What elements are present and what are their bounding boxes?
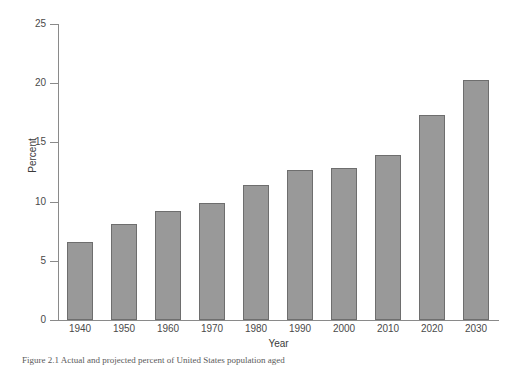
x-axis-title: Year — [58, 338, 499, 349]
x-axis-tick-label: 1950 — [102, 324, 146, 334]
x-axis-tick-label: 1960 — [146, 324, 190, 334]
y-axis-tick — [50, 320, 58, 321]
bar — [375, 155, 401, 320]
bar — [419, 115, 445, 320]
x-axis-tick-label: 1990 — [278, 324, 322, 334]
y-axis-tick-label: 25 — [0, 19, 46, 29]
y-axis-tick-label: 15 — [0, 137, 46, 147]
x-axis-tick-label: 2020 — [410, 324, 454, 334]
y-axis-tick-label: 0 — [0, 315, 46, 325]
bar — [243, 185, 269, 320]
x-axis-tick-label: 1940 — [58, 324, 102, 334]
bar — [199, 203, 225, 320]
y-axis-tick — [50, 142, 58, 143]
bar — [67, 242, 93, 320]
figure-container: 0510152025 19401950196019701980199020002… — [0, 0, 515, 365]
y-axis-tick — [50, 261, 58, 262]
y-axis-tick-label: 20 — [0, 78, 46, 88]
bar — [155, 211, 181, 320]
plot-area — [58, 24, 498, 320]
y-axis-tick — [50, 24, 58, 25]
bar — [331, 168, 357, 320]
bar — [111, 224, 137, 320]
x-axis-tick-label: 2000 — [322, 324, 366, 334]
x-axis-line — [58, 320, 499, 321]
x-axis-tick-label: 2010 — [366, 324, 410, 334]
bar — [463, 80, 489, 320]
y-axis-tick — [50, 202, 58, 203]
bar — [287, 170, 313, 320]
figure-caption: Figure 2.1 Actual and projected percent … — [22, 355, 500, 365]
y-axis-title: Percent — [27, 116, 38, 196]
y-axis-tick — [50, 83, 58, 84]
x-axis-tick-label: 1970 — [190, 324, 234, 334]
y-axis-tick-label: 10 — [0, 197, 46, 207]
y-axis-tick-label: 5 — [0, 256, 46, 266]
x-axis-tick-label: 1980 — [234, 324, 278, 334]
x-axis-tick-label: 2030 — [454, 324, 498, 334]
